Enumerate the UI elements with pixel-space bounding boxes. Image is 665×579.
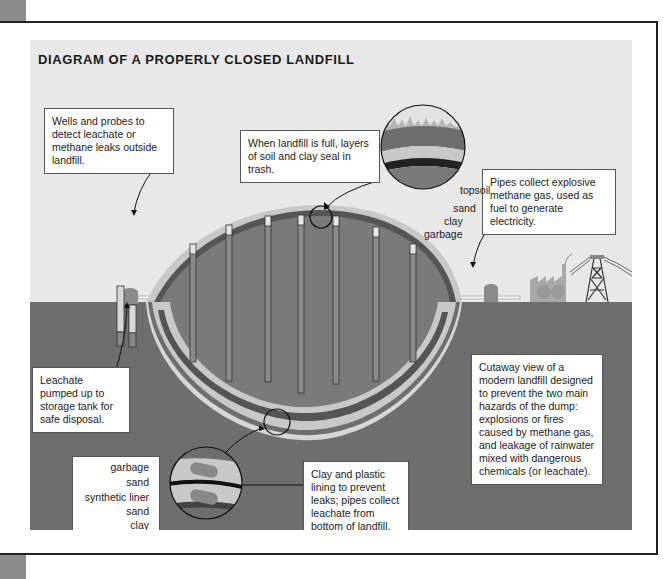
label-sand-bottom-1: sand: [126, 476, 149, 488]
callout-lining: Clay and plastic lining to prevent leaks…: [303, 461, 409, 530]
label-garbage-bottom: garbage: [110, 461, 149, 473]
arrow-full: [328, 180, 380, 206]
label-sand-top: sand: [453, 202, 476, 214]
frame-tab-top: [0, 0, 26, 22]
frame-tab-bottom: [0, 553, 26, 579]
label-clay-bottom: clay: [130, 519, 149, 530]
label-clay-top: clay: [444, 215, 463, 227]
callout-landfill-full: When landfill is full, layers of soil an…: [240, 130, 380, 183]
callout-monitoring-wells: Wells and probes to detect leachate or m…: [44, 108, 174, 174]
top-layer-magnifier: [380, 100, 470, 200]
label-synthetic-liner: synthetic liner: [85, 491, 149, 503]
power-plant: [460, 254, 632, 302]
diagram-panel: DIAGRAM OF A PROPERLY CLOSED LANDFILL: [30, 40, 632, 530]
label-sand-bottom-2: sand: [126, 505, 149, 517]
label-topsoil: topsoil: [460, 184, 490, 196]
label-garbage-top: garbage: [424, 228, 463, 240]
callout-cutaway: Cutaway view of a modern landfill design…: [471, 354, 603, 485]
callout-gas-pipes: Pipes collect explosive methane gas, use…: [482, 169, 616, 235]
callout-leachate-tank: Leachate pumped up to storage tank for s…: [32, 367, 130, 433]
arrow-wells: [134, 171, 152, 212]
transmission-tower: [570, 255, 632, 302]
